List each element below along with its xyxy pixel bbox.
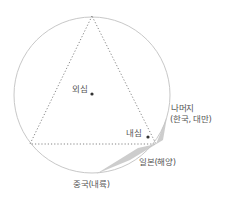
circumcenter-label: 외심 <box>72 84 87 95</box>
rest-label-line2: (한국, 대만) <box>170 114 212 125</box>
japan-label: 일본(해양) <box>139 157 176 168</box>
china-label: 중국(내륙) <box>73 179 110 190</box>
triangle <box>30 16 156 144</box>
incenter-label: 내심 <box>126 128 141 139</box>
incenter-dot <box>146 135 149 138</box>
circumcenter-dot <box>90 92 93 95</box>
rest-label-line1: 나머지 <box>171 103 194 114</box>
